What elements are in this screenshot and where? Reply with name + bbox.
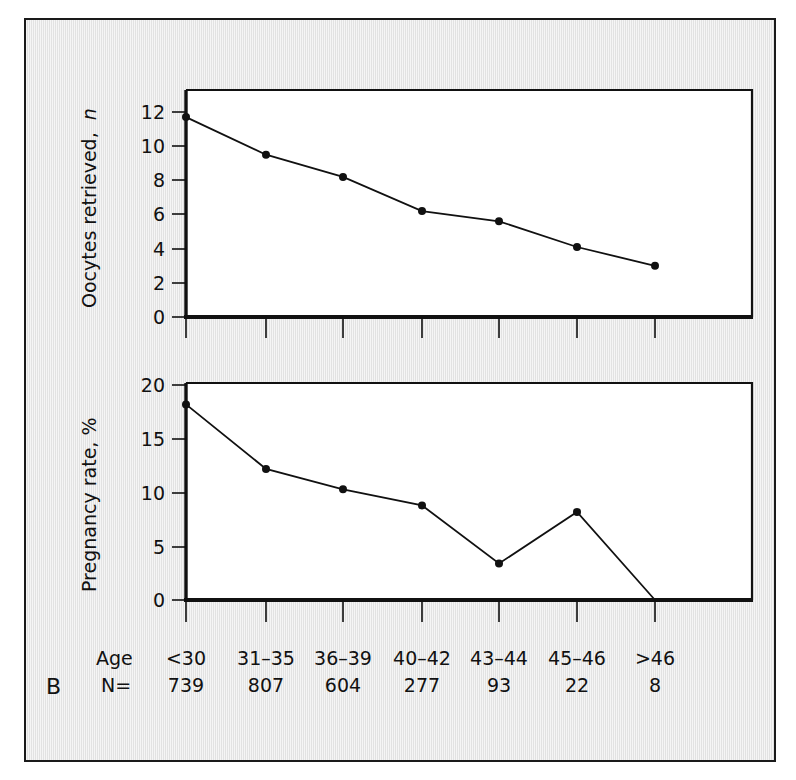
y-tick-label: 4 [153, 238, 165, 260]
sample-size-value: 807 [248, 674, 284, 696]
y-tick-label: 12 [141, 101, 165, 123]
plot-area-pregnancy [186, 383, 752, 600]
y-tick-label: 0 [153, 306, 165, 328]
row-label-n: N= [101, 674, 131, 696]
data-point-marker [182, 400, 190, 408]
data-point-marker [495, 217, 503, 225]
category-labels: <3031–3536–3940–4243–4445–46>46 [166, 647, 675, 669]
sample-size-labels: 73980760427793228 [168, 674, 661, 696]
y-ticks-oocytes [172, 112, 186, 317]
y-axis-title-oocytes: Oocytes retrieved, n [78, 108, 100, 308]
data-point-marker [573, 508, 581, 516]
data-point-marker [262, 151, 270, 159]
category-label: 45–46 [548, 647, 606, 669]
sample-size-value: 277 [404, 674, 440, 696]
data-point-marker [339, 485, 347, 493]
category-label: >46 [635, 647, 675, 669]
y-tick-label: 2 [153, 272, 165, 294]
data-point-marker [339, 173, 347, 181]
panel-letter: B [46, 674, 61, 699]
sample-size-value: 8 [649, 674, 661, 696]
data-point-marker [182, 113, 190, 121]
data-point-marker [418, 501, 426, 509]
y-tick-label: 15 [141, 428, 165, 450]
y-tick-label: 6 [153, 203, 165, 225]
plot-area-oocytes [186, 90, 752, 317]
sample-size-value: 604 [325, 674, 361, 696]
figure-panel-b: 12 10 8 6 4 2 0 Oocytes re [0, 0, 796, 780]
y-tick-label: 20 [141, 374, 165, 396]
panel-pregnancy-rate: 20 15 10 5 0 Pregnancy rate, % [78, 374, 753, 622]
sample-size-value: 739 [168, 674, 204, 696]
y-tick-label: 5 [153, 536, 165, 558]
category-label: 40–42 [393, 647, 451, 669]
y-axis-title-text: Oocytes retrieved, [78, 132, 100, 308]
row-label-age: Age [96, 647, 133, 669]
y-axis-title-italic: n [78, 108, 100, 120]
x-ticks-oocytes [186, 317, 655, 338]
data-point-marker [418, 207, 426, 215]
y-ticks-pregnancy [172, 385, 186, 600]
category-table: B Age N= <3031–3536–3940–4243–4445–46>46… [46, 647, 675, 699]
y-tick-label: 10 [141, 482, 165, 504]
category-label: 31–35 [237, 647, 295, 669]
x-ticks-pregnancy [186, 600, 655, 622]
y-tick-labels-pregnancy: 20 15 10 5 0 [141, 374, 165, 611]
category-label: 36–39 [314, 647, 372, 669]
sample-size-value: 22 [565, 674, 589, 696]
svg-text:Oocytes retrieved, n: Oocytes retrieved, n [78, 108, 100, 308]
data-point-marker [573, 243, 581, 251]
chart-canvas: 12 10 8 6 4 2 0 Oocytes re [0, 0, 796, 780]
category-label: <30 [166, 647, 206, 669]
y-tick-label: 0 [153, 589, 165, 611]
sample-size-value: 93 [487, 674, 511, 696]
data-point-marker [262, 465, 270, 473]
y-tick-label: 8 [153, 169, 165, 191]
data-point-marker [651, 262, 659, 270]
panel-oocytes-retrieved: 12 10 8 6 4 2 0 Oocytes re [78, 90, 753, 338]
data-point-marker [495, 560, 503, 568]
category-label: 43–44 [470, 647, 528, 669]
y-tick-labels-oocytes: 12 10 8 6 4 2 0 [141, 101, 165, 328]
y-axis-title-pregnancy: Pregnancy rate, % [78, 418, 100, 592]
y-tick-label: 10 [141, 135, 165, 157]
